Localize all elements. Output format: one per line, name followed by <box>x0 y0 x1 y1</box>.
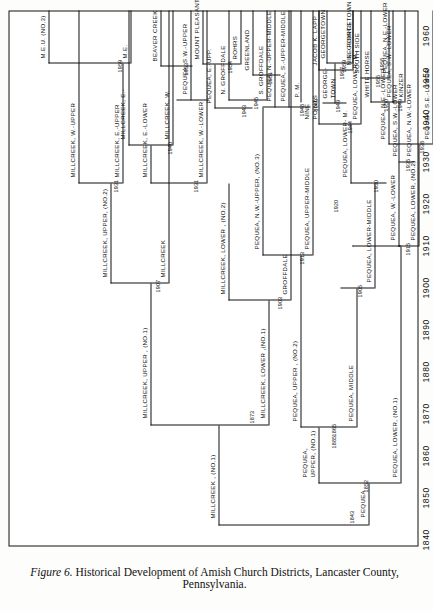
branch-pqswupper <box>190 10 191 100</box>
split-1873 <box>150 424 268 425</box>
axis-tick-1960: 1960 <box>420 25 430 46</box>
node-jacobklapp: Jacob K. Lapp <box>310 15 317 65</box>
axis-tick-1890: 1890 <box>420 319 430 340</box>
node-mtpleasant: Mount Pleasant <box>192 0 199 59</box>
branch-pqlower1 <box>400 246 401 483</box>
split-1852 <box>318 482 400 483</box>
node-pqswupper: Pequea, S.W.-Upper <box>180 23 187 94</box>
node-ngroffdale: N. Groffdale <box>218 45 225 94</box>
branch-ngroffdale <box>228 10 229 100</box>
date-1931-upper: 1931 <box>112 179 118 192</box>
axis-tick-1850: 1850 <box>420 487 430 508</box>
branch-pqmiddle <box>356 288 357 427</box>
node-whitehorse: White Horse <box>362 50 369 97</box>
branch-millcreek1 <box>218 425 219 525</box>
axis-tick-1920: 1920 <box>420 193 430 214</box>
figure-caption: Figure 6. Historical Development of Amis… <box>0 566 429 590</box>
branch-mtpleasant <box>202 10 203 64</box>
node-pqlowmid: Pequea, Lower-Middle <box>364 199 371 282</box>
rotated-chart-wrapper: 1840 1850 1860 1870 1880 1890 1900 1910 … <box>0 0 429 560</box>
node-pqmiddle: Pequea, Middle <box>346 364 353 421</box>
node-mcwlower: Millcreek, W.-Lower <box>196 101 203 177</box>
node-mcwupper: Millcreek, W.-Upper <box>68 102 75 177</box>
axis-tick-1870: 1870 <box>420 403 430 424</box>
date-1954: 1954 <box>226 60 232 73</box>
date-1907: 1907 <box>154 279 160 292</box>
branch-meu3 <box>48 10 49 63</box>
branch-pqnwupper3 <box>262 107 263 255</box>
split-1865 <box>300 426 356 427</box>
date-1935: 1935 <box>404 158 410 171</box>
branch-mclower2 <box>228 183 229 300</box>
node-sgeorgetown: Georgetown <box>318 9 325 58</box>
branch-pm <box>300 10 301 102</box>
branch-pqlower2-line <box>418 144 419 246</box>
node-pqswlower2: Pequea, S.W.-Lower <box>384 25 391 97</box>
node-pqwlower: Pequea, W.-Lower <box>388 174 395 240</box>
branch-mclower1 <box>268 300 269 425</box>
node-pqselower: Pequea, S.E.-Lower <box>422 68 429 139</box>
split-1954 <box>202 63 240 64</box>
branch-southside <box>360 10 361 78</box>
date-1953: 1953 <box>182 62 188 75</box>
node-mcelower: Millcreek, E.-Lower <box>140 102 147 177</box>
node-mclower2: Millcreek, Lower , (No.2) <box>218 202 225 294</box>
date-1931-lower: 1931 <box>192 179 198 192</box>
date-1943: 1943 <box>240 104 246 117</box>
date-1938: 1938 <box>418 140 424 153</box>
branch-rohrs <box>240 10 241 64</box>
branch-pqupper1 <box>318 427 319 483</box>
branch-pqnwupmid <box>274 10 275 107</box>
node-pqlower1: Pequea, Lower, (No.1) <box>390 397 397 477</box>
node-millcreek: Millcreek <box>158 239 165 277</box>
date-1940: 1940 <box>166 141 172 154</box>
split-1944 <box>318 123 360 124</box>
branch-greenland <box>252 10 253 75</box>
date-1945: 1945 <box>252 96 258 109</box>
date-1873: 1873 <box>248 410 254 423</box>
branch-kinzer <box>404 10 405 102</box>
branch-pqswupmid <box>288 10 289 107</box>
node-pqupper1-line2: Upper, (No.1) <box>308 430 315 477</box>
branch-mcupper2 <box>110 183 111 283</box>
split-1913 <box>262 254 312 255</box>
branch-pqlower2-seg <box>352 245 353 246</box>
node-pqswupmid: Pequea, S.-Upper-Middle <box>278 10 285 101</box>
date-1885: 1885 <box>330 435 336 448</box>
date-1944: 1944 <box>346 120 352 133</box>
date-1913: 1913 <box>298 251 304 264</box>
node-pequea: Pequea <box>358 490 365 518</box>
node-mcupper1: Millcreek, Upper , (No.1) <box>140 327 147 418</box>
date-1950: 1950 <box>382 98 388 111</box>
node-pqnwupper3: Pequea, N.W.-Upper, (No.3) <box>252 153 259 249</box>
date-1865: 1865 <box>330 423 336 436</box>
branch-pqswlower2 <box>392 10 393 102</box>
node-pqnwupmid: Pequea, N.-Upper-Middle <box>264 10 271 101</box>
node-beavercreek: Beaver Creek <box>150 10 157 61</box>
branch-me <box>130 10 131 63</box>
split-1930 <box>350 182 386 183</box>
figure-number: Figure 6. <box>30 566 72 578</box>
split-1915-down <box>398 245 418 246</box>
node-pqlowerm: Pequea, Lower- M. <box>340 109 347 177</box>
figure-caption-text: Historical Development of Amish Church D… <box>75 566 398 590</box>
node-millcreek1: Millcreek , (No.1) <box>208 454 215 518</box>
node-pqlower2: Pequea, Lower, (No.2) <box>408 160 415 240</box>
axis-tick-1930: 1930 <box>420 151 430 172</box>
branch-beavercreek <box>160 10 161 66</box>
node-pm: P. M. <box>292 82 299 97</box>
branch-mcw <box>172 10 173 145</box>
split-1945-pequea <box>176 99 208 100</box>
split-1843 <box>218 524 368 525</box>
axis-tick-1910: 1910 <box>420 235 430 256</box>
node-greenland: Greenland <box>242 29 249 70</box>
node-pqupmid: Pequea, Upper-Middle <box>302 167 309 249</box>
date-1903: 1903 <box>276 296 282 309</box>
branch-pqupper2 <box>300 255 301 427</box>
branch-pqwlower <box>398 162 399 246</box>
node-kinzer: Kinzer <box>396 73 403 97</box>
split-1945-groffdale <box>228 99 266 100</box>
node-pqupper2: Pequea, Upper , (No.2) <box>290 340 297 421</box>
node-georgetown-line2: town <box>328 78 335 98</box>
